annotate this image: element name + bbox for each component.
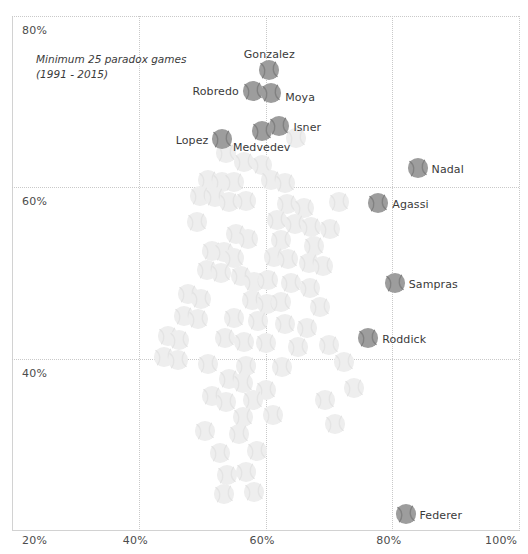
tennis-ball-marker[interactable] — [167, 349, 189, 371]
tennis-ball-marker[interactable] — [209, 442, 231, 464]
point-label-medvedev: Medvedev — [233, 140, 291, 153]
tennis-ball-marker[interactable] — [257, 269, 279, 291]
point-label-agassi: Agassi — [392, 197, 428, 210]
tennis-ball-marker[interactable] — [247, 310, 269, 332]
y-tick-label: 80% — [22, 24, 47, 37]
point-label-federer: Federer — [420, 508, 463, 521]
tennis-ball-marker-moya[interactable] — [260, 82, 282, 104]
y-axis-line — [12, 16, 13, 531]
x-tick-label: 60% — [250, 534, 275, 547]
point-label-moya: Moya — [285, 91, 315, 104]
tennis-ball-marker[interactable] — [235, 461, 257, 483]
tennis-ball-marker-medvedev[interactable] — [251, 120, 273, 142]
tennis-ball-marker-roddick[interactable] — [357, 327, 379, 349]
tennis-ball-marker-federer[interactable] — [395, 503, 417, 525]
tennis-ball-marker-sampras[interactable] — [384, 272, 406, 294]
tennis-ball-marker[interactable] — [213, 483, 235, 505]
gridline-vertical — [519, 16, 520, 531]
tennis-ball-marker-nadal[interactable] — [407, 157, 429, 179]
tennis-ball-marker[interactable] — [243, 481, 265, 503]
annotation-line-2: (1991 - 2015) — [36, 67, 186, 82]
tennis-ball-marker[interactable] — [333, 351, 355, 373]
tennis-ball-marker[interactable] — [274, 172, 296, 194]
tennis-ball-marker[interactable] — [233, 331, 255, 353]
tennis-ball-marker[interactable] — [314, 389, 336, 411]
gridline-vertical — [139, 16, 140, 531]
chart-annotation: Minimum 25 paradox games (1991 - 2015) — [36, 52, 186, 82]
tennis-ball-marker[interactable] — [187, 308, 209, 330]
tennis-ball-marker-gonzalez[interactable] — [258, 59, 280, 81]
x-tick-label: 40% — [123, 534, 148, 547]
tennis-ball-marker[interactable] — [186, 211, 208, 233]
tennis-ball-marker[interactable] — [324, 413, 346, 435]
tennis-ball-marker[interactable] — [343, 377, 365, 399]
point-label-isner: Isner — [293, 120, 321, 133]
point-label-sampras: Sampras — [409, 278, 458, 291]
tennis-ball-marker[interactable] — [235, 190, 257, 212]
tennis-ball-marker[interactable] — [233, 151, 255, 173]
tennis-ball-marker[interactable] — [194, 420, 216, 442]
point-label-gonzalez: Gonzalez — [244, 47, 295, 60]
tennis-ball-marker[interactable] — [271, 356, 293, 378]
tennis-ball-marker[interactable] — [274, 313, 296, 335]
tennis-ball-marker[interactable] — [223, 307, 245, 329]
tennis-ball-marker-lopez[interactable] — [211, 128, 233, 150]
point-label-robredo: Robredo — [192, 84, 238, 97]
point-label-lopez: Lopez — [176, 134, 209, 147]
y-tick-label: 40% — [22, 367, 47, 380]
tennis-ball-marker[interactable] — [309, 296, 331, 318]
tennis-ball-marker[interactable] — [312, 255, 334, 277]
tennis-ball-marker[interactable] — [262, 404, 284, 426]
tennis-ball-marker[interactable] — [210, 262, 232, 284]
x-tick-label: 100% — [485, 534, 517, 547]
y-tick-label: 60% — [22, 195, 47, 208]
tennis-ball-marker[interactable] — [270, 291, 292, 313]
scatter-chart: 40%60%80%20%40%60%80%100% Minimum 25 par… — [0, 0, 528, 554]
point-label-nadal: Nadal — [432, 163, 464, 176]
tennis-ball-marker[interactable] — [197, 353, 219, 375]
tennis-ball-marker[interactable] — [255, 332, 277, 354]
annotation-line-1: Minimum 25 paradox games — [36, 52, 186, 67]
tennis-ball-marker[interactable] — [277, 248, 299, 270]
x-tick-label: 80% — [376, 534, 401, 547]
tennis-ball-marker[interactable] — [328, 191, 350, 213]
tennis-ball-marker-agassi[interactable] — [367, 192, 389, 214]
point-label-roddick: Roddick — [382, 333, 426, 346]
x-tick-label: 20% — [22, 534, 47, 547]
tennis-ball-marker[interactable] — [287, 336, 309, 358]
tennis-ball-marker[interactable] — [246, 440, 268, 462]
